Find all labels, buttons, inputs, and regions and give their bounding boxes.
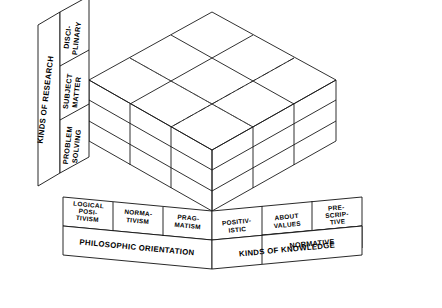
figure-canvas: KINDS OF RESEARCH DISCI- PLINARY SUBJECT… [0,0,442,308]
svg-text:TIVE: TIVE [330,217,346,225]
bottom-left-axis-cat-1: NORMA- TIVISM [123,208,152,226]
cube-right-face [212,80,336,211]
cube-left-face [89,80,212,211]
cube-top-face [89,12,336,150]
bottom-right-axis-cat-1: ABOUT VALUES [273,212,302,230]
classification-cube-diagram: KINDS OF RESEARCH DISCI- PLINARY SUBJECT… [0,0,442,308]
bottom-left-axis-cat-2: PRAG- MATISM [174,213,202,230]
